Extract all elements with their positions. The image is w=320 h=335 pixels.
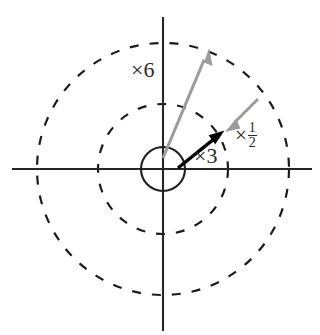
times-sign: × bbox=[235, 125, 247, 146]
vector-x3-label: ×3 bbox=[194, 145, 217, 167]
complex-plane-diagram bbox=[0, 0, 320, 335]
vector-x-half-shaft bbox=[235, 99, 259, 123]
vector-diagram-figure: ×6 ×3 × 1 2 bbox=[0, 0, 320, 335]
fraction-denominator: 2 bbox=[248, 135, 257, 150]
fraction-one-half: 1 2 bbox=[248, 121, 257, 151]
vector-x6 bbox=[163, 48, 213, 158]
vector-x-half-label: × 1 2 bbox=[235, 121, 257, 151]
fraction-numerator: 1 bbox=[248, 121, 257, 135]
vector-x6-arrowhead bbox=[204, 48, 213, 66]
vector-x6-label: ×6 bbox=[131, 59, 154, 81]
